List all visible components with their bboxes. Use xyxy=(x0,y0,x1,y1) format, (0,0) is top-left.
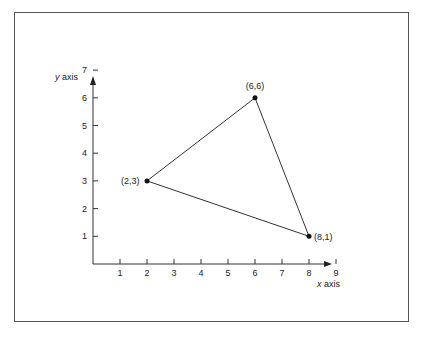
point-label: (6,6) xyxy=(246,81,265,91)
x-tick-label: 3 xyxy=(171,268,176,278)
point-label: (8,1) xyxy=(314,232,333,242)
x-tick-label: 1 xyxy=(117,268,122,278)
x-axis-arrow-icon xyxy=(324,261,332,267)
x-axis-label: x axis xyxy=(316,279,341,289)
triangle xyxy=(147,98,309,237)
triangle-plot: 1234567891234567x axisy axis(2,3)(6,6)(8… xyxy=(0,0,421,338)
x-tick-label: 5 xyxy=(225,268,230,278)
y-axis-label: y axis xyxy=(54,72,79,82)
y-axis-arrow-icon xyxy=(90,76,96,85)
y-tick-label: 6 xyxy=(82,93,87,103)
x-tick-label: 4 xyxy=(198,268,203,278)
y-tick-label: 3 xyxy=(82,176,87,186)
data-point xyxy=(307,234,312,239)
y-tick-label: 5 xyxy=(82,121,87,131)
data-point xyxy=(253,95,258,100)
data-point xyxy=(145,178,150,183)
x-tick-label: 6 xyxy=(252,268,257,278)
y-tick-label: 7 xyxy=(82,65,87,75)
x-tick-label: 8 xyxy=(306,268,311,278)
y-tick-label: 4 xyxy=(82,148,87,158)
point-label: (2,3) xyxy=(121,176,140,186)
x-tick-label: 7 xyxy=(279,268,284,278)
x-tick-label: 9 xyxy=(333,268,338,278)
y-tick-label: 1 xyxy=(82,231,87,241)
x-tick-label: 2 xyxy=(144,268,149,278)
y-tick-label: 2 xyxy=(82,204,87,214)
